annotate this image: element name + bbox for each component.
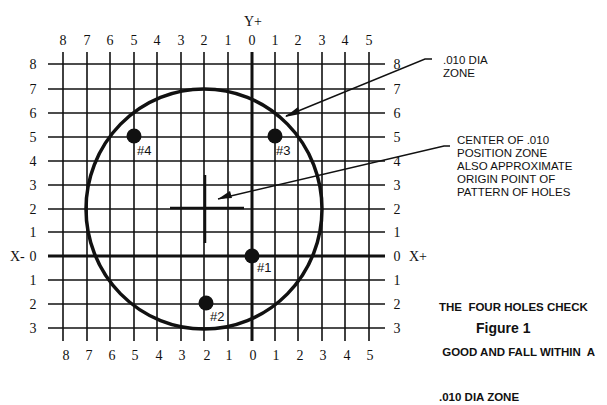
- svg-text:2: 2: [297, 348, 304, 363]
- svg-text:0: 0: [250, 348, 257, 363]
- figure-title: Figure 1: [476, 320, 530, 336]
- zone-callout-line1: .010 DIA: [443, 54, 488, 67]
- conclusion-line2: GOOD AND FALL WITHIN A: [439, 345, 595, 360]
- svg-text:6: 6: [107, 33, 114, 48]
- svg-text:4: 4: [156, 348, 163, 363]
- hole-4: [127, 129, 142, 144]
- zone-leader-arrow: [285, 59, 432, 117]
- center-callout-line2: POSITION ZONE: [457, 147, 572, 160]
- svg-text:6: 6: [30, 106, 37, 121]
- center-callout-line5: PATTERN OF HOLES: [457, 186, 572, 199]
- x-plus-label: X+: [409, 249, 427, 264]
- conclusion-line3: .010 DIA ZONE: [439, 390, 595, 405]
- hole-3-label: #3: [276, 143, 290, 158]
- svg-text:1: 1: [30, 273, 37, 288]
- zone-callout-line2: ZONE: [443, 67, 488, 80]
- svg-text:3: 3: [30, 321, 37, 336]
- svg-text:5: 5: [131, 33, 138, 48]
- center-callout: CENTER OF .010 POSITION ZONE ALSO APPROX…: [457, 134, 572, 199]
- svg-text:2: 2: [394, 297, 401, 312]
- y-plus-label: Y+: [244, 14, 262, 29]
- svg-text:6: 6: [394, 106, 401, 121]
- conclusion-line1: THE FOUR HOLES CHECK: [439, 300, 595, 315]
- hole-1-label: #1: [257, 260, 271, 275]
- svg-text:2: 2: [394, 202, 401, 217]
- center-callout-line4: ORIGIN POINT OF: [457, 173, 572, 186]
- svg-text:3: 3: [179, 348, 186, 363]
- center-callout-line3: ALSO APPROXIMATE: [457, 160, 572, 173]
- svg-text:1: 1: [30, 225, 37, 240]
- svg-text:7: 7: [394, 82, 401, 97]
- svg-text:1: 1: [394, 225, 401, 240]
- hole-2-label: #2: [210, 309, 224, 324]
- top-tick-labels: 8 7 6 5 4 3 2 1 0 1 2 3 4 5: [60, 33, 373, 48]
- svg-text:3: 3: [320, 348, 327, 363]
- svg-text:3: 3: [30, 178, 37, 193]
- svg-text:8: 8: [30, 57, 37, 72]
- svg-text:1: 1: [226, 348, 233, 363]
- hole-3: [268, 129, 283, 144]
- svg-text:8: 8: [60, 33, 67, 48]
- svg-text:5: 5: [366, 33, 373, 48]
- svg-text:8: 8: [63, 348, 70, 363]
- hole-4-label: #4: [137, 143, 151, 158]
- svg-text:3: 3: [319, 33, 326, 48]
- svg-text:4: 4: [344, 348, 351, 363]
- svg-text:0: 0: [30, 249, 37, 264]
- svg-text:3: 3: [178, 33, 185, 48]
- svg-text:2: 2: [30, 297, 37, 312]
- svg-text:0: 0: [249, 33, 256, 48]
- bottom-tick-labels: 8 7 6 5 4 3 2 1 0 1 2 3 4 5: [63, 348, 374, 363]
- svg-text:2: 2: [295, 33, 302, 48]
- svg-text:5: 5: [132, 348, 139, 363]
- svg-text:2: 2: [201, 33, 208, 48]
- svg-text:4: 4: [30, 154, 37, 169]
- right-tick-labels: 8 7 6 5 4 3 2 1 0 1 2 3: [394, 57, 401, 336]
- svg-text:8: 8: [394, 57, 401, 72]
- svg-text:1: 1: [273, 348, 280, 363]
- svg-text:7: 7: [30, 82, 37, 97]
- svg-text:7: 7: [86, 348, 93, 363]
- svg-text:4: 4: [394, 154, 401, 169]
- svg-text:4: 4: [154, 33, 161, 48]
- svg-text:6: 6: [109, 348, 116, 363]
- svg-text:5: 5: [30, 130, 37, 145]
- svg-text:3: 3: [394, 321, 401, 336]
- svg-text:2: 2: [204, 348, 211, 363]
- svg-text:1: 1: [394, 273, 401, 288]
- svg-text:1: 1: [225, 33, 232, 48]
- left-tick-labels: 8 7 6 5 4 3 2 1 0 1 2 3: [30, 57, 37, 336]
- svg-text:1: 1: [272, 33, 279, 48]
- svg-text:5: 5: [367, 348, 374, 363]
- svg-text:2: 2: [30, 202, 37, 217]
- conclusion-note: THE FOUR HOLES CHECK GOOD AND FALL WITHI…: [439, 270, 595, 405]
- svg-text:4: 4: [342, 33, 349, 48]
- horizontal-grid-lines: [48, 64, 385, 328]
- svg-text:5: 5: [394, 130, 401, 145]
- zone-callout: .010 DIA ZONE: [443, 54, 488, 80]
- center-callout-line1: CENTER OF .010: [457, 134, 572, 147]
- x-minus-label: X-: [10, 249, 25, 264]
- svg-text:3: 3: [394, 178, 401, 193]
- svg-text:0: 0: [394, 249, 401, 264]
- svg-text:7: 7: [84, 33, 91, 48]
